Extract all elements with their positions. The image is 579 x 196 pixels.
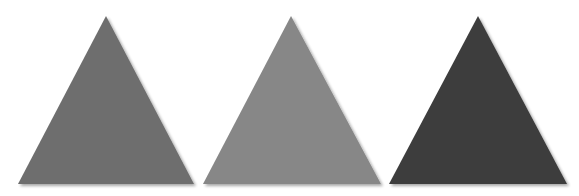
canvas (0, 0, 579, 196)
triangle-icon-light-gray (203, 16, 381, 184)
triangles-graphic (0, 0, 579, 196)
triangle-icon-dark-gray (389, 16, 567, 184)
triangle-icon-gray (18, 16, 194, 184)
